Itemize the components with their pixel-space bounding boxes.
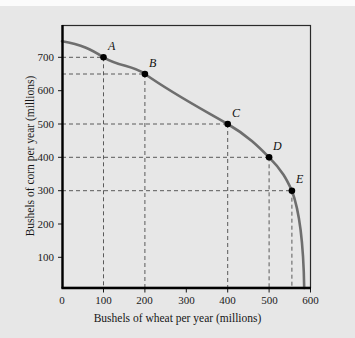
xtick-label-300: 300 <box>172 294 201 306</box>
point-label-B: B <box>149 56 156 71</box>
dashed-guides-vertical <box>104 57 292 288</box>
xtick-label-200: 200 <box>130 294 159 306</box>
point-label-D: D <box>273 139 282 154</box>
y-axis-title: Bushels of corn per year (millions) <box>24 41 36 271</box>
xtick-label-600: 600 <box>296 294 325 306</box>
point-marker-A[interactable] <box>100 54 107 61</box>
xtick-label-0: 0 <box>52 294 72 306</box>
plot-frame <box>63 26 311 288</box>
point-marker-C[interactable] <box>224 121 231 128</box>
xtick-label-400: 400 <box>213 294 242 306</box>
point-marker-E[interactable] <box>289 187 296 194</box>
point-label-E: E <box>296 172 303 187</box>
xtick-label-500: 500 <box>255 294 284 306</box>
point-marker-D[interactable] <box>266 154 273 161</box>
chart-figure: 700 600 500 400 300 200 100 0 100 200 30… <box>0 0 355 338</box>
ppf-curve <box>62 41 304 288</box>
point-label-A: A <box>108 39 115 54</box>
dashed-guides-horizontal <box>62 57 292 190</box>
point-label-C: C <box>232 106 240 121</box>
point-marker-B[interactable] <box>142 71 149 78</box>
x-axis-title: Bushels of wheat per year (millions) <box>0 312 355 324</box>
xtick-label-100: 100 <box>89 294 118 306</box>
